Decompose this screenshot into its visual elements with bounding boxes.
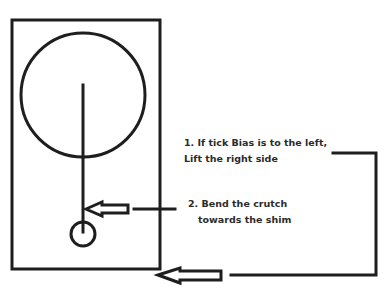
annotation-step-1-line-1: 1. If tick Bias is to the left, <box>184 135 327 151</box>
lift-arrow-icon <box>158 268 221 283</box>
annotation-step-2: 2. Bend the crutch towards the shim <box>188 196 291 228</box>
annotation-step-1: 1. If tick Bias is to the left, Lift the… <box>184 135 327 167</box>
crutch-arrow-icon <box>86 202 128 216</box>
annotation-step-2-line-2: towards the shim <box>188 212 291 228</box>
annotation-step-1-line-2: Lift the right side <box>184 151 327 167</box>
annotation-step-2-line-1: 2. Bend the crutch <box>188 196 291 212</box>
